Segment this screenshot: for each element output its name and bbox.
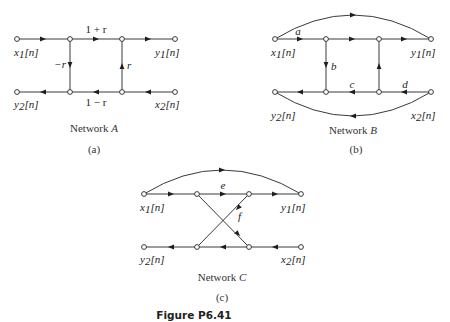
- network-title: Network C: [198, 271, 247, 283]
- arrow-left-icon: [297, 90, 303, 95]
- node: [273, 90, 278, 95]
- arrow-right-icon: [297, 37, 303, 42]
- arrow-left-icon: [145, 90, 151, 95]
- input-label-x1: x1[n]: [270, 46, 295, 60]
- arrow-left-icon: [168, 245, 174, 250]
- figure-canvas: 1 + r 1 − r −r r x1[n] y1[n] y2[n] x2[n]…: [0, 0, 450, 322]
- input-label-x1: x1[n]: [139, 201, 164, 215]
- network-b: a b c d x1[n] y1[n] y2[n] x2[n] Network …: [270, 13, 435, 156]
- node: [68, 37, 73, 42]
- node: [68, 90, 73, 95]
- arrow-right-icon: [168, 192, 174, 197]
- network-title: Network B: [329, 124, 377, 136]
- node: [324, 37, 329, 42]
- network-title: Network A: [70, 122, 118, 134]
- arrow-diagonal-icon: [234, 230, 242, 238]
- node: [173, 37, 178, 42]
- output-label-y1: y1[n]: [280, 201, 305, 215]
- node: [173, 90, 178, 95]
- arrow-left-icon: [272, 245, 278, 250]
- node: [195, 245, 200, 250]
- node: [429, 37, 434, 42]
- arrow-left-icon: [93, 90, 99, 95]
- subfigure-label: (b): [350, 143, 363, 156]
- node: [377, 37, 382, 42]
- output-label-y2: y2[n]: [13, 98, 38, 112]
- arrow-up-icon: [377, 63, 382, 69]
- gain-label-c: c: [350, 78, 355, 90]
- gain-label-left: −r: [54, 58, 66, 70]
- node: [142, 245, 147, 250]
- gain-label-a: a: [295, 25, 301, 37]
- arrow-right-icon: [40, 37, 46, 42]
- node: [142, 192, 147, 197]
- arrow-left-icon: [349, 90, 355, 95]
- node: [120, 37, 125, 42]
- output-label-y1: y1[n]: [154, 46, 179, 60]
- input-label-x1: x1[n]: [13, 46, 38, 60]
- network-c: e f x1[n] y1[n] y2[n] x2[n] Network C (c…: [139, 168, 305, 304]
- node: [299, 245, 304, 250]
- node: [273, 37, 278, 42]
- arrow-right-icon: [349, 37, 355, 42]
- node: [247, 192, 252, 197]
- arrow-right-icon: [93, 37, 99, 42]
- arrow-left-icon: [40, 90, 46, 95]
- figure-caption: Figure P6.41: [156, 309, 231, 321]
- gain-label-f: f: [238, 210, 243, 222]
- subfigure-label: (c): [216, 291, 229, 304]
- bottom-arc-branch: [275, 92, 431, 116]
- input-label-x2: x2[n]: [280, 253, 305, 267]
- arrow-right-icon: [219, 168, 225, 173]
- output-label-y2: y2[n]: [270, 109, 295, 123]
- gain-label-e: e: [221, 179, 226, 191]
- subfigure-label: (a): [88, 143, 101, 156]
- output-label-y1: y1[n]: [410, 46, 435, 60]
- network-a: 1 + r 1 − r −r r x1[n] y1[n] y2[n] x2[n]…: [13, 23, 179, 156]
- arrow-right-icon: [220, 192, 226, 197]
- node: [15, 37, 20, 42]
- arrow-right-icon: [272, 192, 278, 197]
- node: [247, 245, 252, 250]
- node: [324, 90, 329, 95]
- gain-label-bottom: 1 − r: [86, 96, 107, 108]
- gain-label-d: d: [402, 78, 408, 90]
- input-label-x2: x2[n]: [410, 109, 435, 123]
- arrow-left-icon: [350, 114, 356, 119]
- node: [429, 90, 434, 95]
- output-label-y2: y2[n]: [139, 253, 164, 267]
- node: [120, 90, 125, 95]
- gain-label-top: 1 + r: [86, 23, 107, 35]
- arrow-down-icon: [68, 62, 73, 68]
- node: [15, 90, 20, 95]
- arrow-up-icon: [120, 63, 125, 69]
- gain-label-b: b: [331, 60, 337, 72]
- arrow-down-icon: [324, 62, 329, 68]
- node: [299, 192, 304, 197]
- arrow-right-icon: [145, 37, 151, 42]
- gain-label-right: r: [127, 59, 132, 71]
- arrow-right-icon: [401, 37, 407, 42]
- arrow-left-icon: [220, 245, 226, 250]
- node: [377, 90, 382, 95]
- node: [195, 192, 200, 197]
- arrow-left-icon: [401, 90, 407, 95]
- input-label-x2: x2[n]: [154, 98, 179, 112]
- arrow-right-icon: [350, 13, 356, 18]
